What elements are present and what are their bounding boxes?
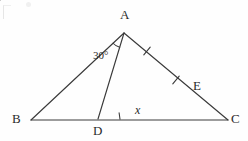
angle-tick-at-vertex-d (119, 113, 120, 119)
congruence-hash-marks-group (144, 47, 179, 84)
angle-marks-group (113, 43, 120, 119)
vertex-label-d: D (93, 124, 102, 137)
vertex-label-a: A (120, 8, 129, 21)
angle-measure-label-30deg: 30° (93, 50, 108, 61)
vertex-label-b: B (12, 112, 21, 125)
vertex-label-e: E (193, 79, 201, 92)
geometry-figure: A B C D E 30° x (0, 0, 248, 141)
angle-arc-at-vertex-a (113, 43, 120, 47)
segments-group (0, 0, 228, 120)
hash-mark-on-ac-lower (173, 76, 179, 84)
vertex-label-c: C (231, 112, 240, 125)
angle-variable-label-x: x (135, 104, 140, 116)
side-AB-line (31, 33, 124, 120)
